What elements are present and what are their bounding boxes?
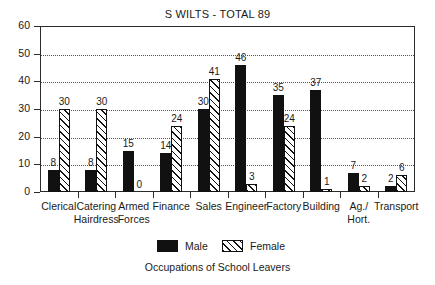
chart-title: S WILTS - TOTAL 89 bbox=[0, 8, 435, 20]
x-axis-tick bbox=[303, 192, 304, 198]
bar-value-label: 0 bbox=[128, 179, 150, 190]
bar-female bbox=[209, 79, 220, 192]
bar-value-label: 15 bbox=[117, 138, 139, 149]
bar-male bbox=[198, 109, 209, 192]
y-axis-tick-label: 60 bbox=[0, 19, 30, 31]
x-axis-title: Occupations of School Leavers bbox=[0, 261, 435, 273]
bar-value-label: 2 bbox=[353, 173, 375, 184]
x-axis-tick bbox=[190, 192, 191, 198]
legend-item-male: Male bbox=[157, 239, 208, 253]
bar-value-label: 1 bbox=[316, 176, 338, 187]
x-axis-tick bbox=[378, 192, 379, 198]
bar-value-label: 41 bbox=[203, 66, 225, 77]
bar-male bbox=[160, 153, 171, 192]
bar-female bbox=[96, 109, 107, 192]
bar-value-label: 30 bbox=[53, 96, 75, 107]
x-axis-tick bbox=[153, 192, 154, 198]
x-axis-tick bbox=[265, 192, 266, 198]
y-axis-tick-label: 40 bbox=[0, 74, 30, 86]
y-axis-tick bbox=[34, 26, 40, 27]
bar-value-label: 3 bbox=[241, 171, 263, 182]
y-axis-tick bbox=[34, 109, 40, 110]
x-axis-tick bbox=[78, 192, 79, 198]
bar-male bbox=[273, 95, 284, 192]
bar-male bbox=[385, 186, 396, 192]
bar-value-label: 24 bbox=[166, 113, 188, 124]
y-axis-tick-label: 0 bbox=[0, 185, 30, 197]
legend-item-female: Female bbox=[222, 239, 285, 253]
y-axis-tick bbox=[34, 81, 40, 82]
y-axis-tick bbox=[34, 164, 40, 165]
chart-legend: MaleFemale bbox=[0, 239, 435, 255]
bar-female bbox=[359, 186, 370, 192]
x-axis-tick bbox=[340, 192, 341, 198]
bar-female bbox=[246, 184, 257, 192]
bar-value-label: 35 bbox=[267, 82, 289, 93]
legend-label: Female bbox=[250, 240, 285, 252]
bar-value-label: 24 bbox=[278, 113, 300, 124]
x-axis-category-label: Transport bbox=[356, 200, 435, 212]
bar-female bbox=[171, 126, 182, 192]
bar-chart-figure: S WILTS - TOTAL 89 0102030405060 8308301… bbox=[0, 0, 435, 285]
bar-value-label: 37 bbox=[305, 77, 327, 88]
bar-female bbox=[321, 189, 332, 192]
bar-value-label: 6 bbox=[391, 162, 413, 173]
bar-female bbox=[396, 175, 407, 192]
y-axis-tick bbox=[34, 54, 40, 55]
hatched-swatch bbox=[222, 240, 243, 252]
x-axis-tick bbox=[228, 192, 229, 198]
gridline bbox=[41, 82, 414, 83]
bar-value-label: 46 bbox=[230, 52, 252, 63]
y-axis-tick-label: 30 bbox=[0, 102, 30, 114]
y-axis-tick bbox=[34, 137, 40, 138]
bar-female bbox=[59, 109, 70, 192]
y-axis-tick bbox=[34, 192, 40, 193]
bar-male bbox=[85, 170, 96, 192]
bar-male bbox=[48, 170, 59, 192]
y-axis-tick-label: 50 bbox=[0, 47, 30, 59]
legend-label: Male bbox=[185, 240, 208, 252]
x-axis-tick bbox=[115, 192, 116, 198]
bar-female bbox=[284, 126, 295, 192]
gridline bbox=[41, 55, 414, 56]
solid-black-swatch bbox=[157, 240, 178, 252]
y-axis-tick-label: 20 bbox=[0, 130, 30, 142]
y-axis-tick-label: 10 bbox=[0, 157, 30, 169]
x-axis-category-label: Forces bbox=[94, 213, 174, 225]
bar-value-label: 30 bbox=[91, 96, 113, 107]
x-axis-category-label: Hort. bbox=[319, 213, 399, 225]
bar-value-label: 7 bbox=[342, 160, 364, 171]
